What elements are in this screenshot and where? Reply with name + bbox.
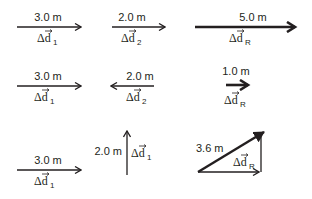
vector-symbol: Δd [229,31,243,45]
vector-dR: 1.0 m Δd R [222,65,250,109]
vector-subscript: 1 [50,181,55,190]
vector-symbol: Δd [224,93,238,107]
vector-d2: 2.0 m Δd 2 [112,11,165,47]
vector-symbol: Δd [131,146,145,160]
vector-symbol: Δd [34,90,48,104]
row-3-perpendicular: 3.0 m Δd 1 2.0 m Δd 1 3.6 m Δd R [17,131,264,190]
magnitude-label: 3.0 m [34,70,62,82]
vector-symbol: Δd [121,31,135,45]
magnitude-label: 1.0 m [222,65,250,77]
vector-d2: 2.0 m Δd 2 [111,70,154,106]
magnitude-label: 5.0 m [239,11,267,23]
vector-addition-diagram: 3.0 m Δd 1 2.0 m Δd 2 5.0 m Δd R 3.0 m [0,0,312,199]
magnitude-label: 2.0 m [118,11,146,23]
vector-dR: 5.0 m Δd R [195,11,295,47]
vector-symbol: Δd [126,90,140,104]
vector-subscript: 1 [53,38,58,47]
vector-subscript: R [240,100,246,109]
vector-subscript: 1 [147,153,152,162]
magnitude-label: 3.0 m [34,11,62,23]
vector-subscript: R [249,162,255,171]
vector-subscript: R [245,38,251,47]
vector-symbol: Δd [34,174,48,188]
vector-d1: 3.0 m Δd 1 [17,154,81,190]
magnitude-label: 3.0 m [34,154,62,166]
row-1-same-direction: 3.0 m Δd 1 2.0 m Δd 2 5.0 m Δd R [17,11,295,47]
magnitude-label: 2.0 m [126,70,154,82]
magnitude-label: 3.6 m [196,142,224,154]
vector-subscript: 2 [142,97,147,106]
vector-triangle: 3.6 m Δd R [196,132,264,172]
vector-d1: 3.0 m Δd 1 [17,11,81,47]
vector-subscript: 2 [137,38,142,47]
vector-d2-vertical: 2.0 m Δd 1 [94,131,152,175]
vector-symbol: Δd [233,155,247,169]
row-2-opposite-direction: 3.0 m Δd 1 2.0 m Δd 2 1.0 m Δd R [17,65,250,109]
magnitude-label: 2.0 m [94,145,122,157]
vector-d1: 3.0 m Δd 1 [17,70,81,106]
vector-symbol: Δd [37,31,51,45]
vector-subscript: 1 [50,97,55,106]
